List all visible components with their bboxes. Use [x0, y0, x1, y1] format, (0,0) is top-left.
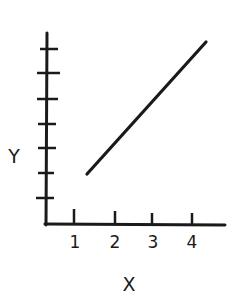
x-ticks	[74, 209, 192, 224]
x-axis	[45, 224, 225, 225]
x-tick-label-2: 2	[110, 232, 121, 252]
x-tick-label-4: 4	[187, 232, 198, 252]
x-axis-label: X	[122, 273, 135, 295]
y-axis-label: Y	[7, 145, 20, 167]
x-tick-label-3: 3	[148, 232, 159, 252]
chart: 1 2 3 4 Y X	[0, 0, 233, 303]
y-axis	[46, 33, 47, 225]
x-tick-label-1: 1	[70, 232, 81, 252]
data-line	[87, 42, 206, 174]
